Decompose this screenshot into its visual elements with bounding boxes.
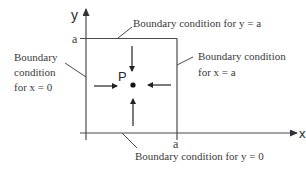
point-p-label: P — [118, 69, 127, 84]
x-axis-label: x — [299, 126, 306, 141]
label-bottom-boundary: Boundary condition for y = 0 — [135, 150, 264, 162]
leader-right — [177, 57, 193, 65]
leader-top — [118, 27, 132, 38]
label-left-line3: for x = 0 — [14, 81, 53, 93]
y-axis-label: y — [71, 7, 78, 23]
label-top-boundary: Boundary condition for y = a — [133, 17, 261, 29]
y-tick-label: a — [72, 32, 78, 46]
leader-left — [65, 63, 86, 77]
leader-bottom — [122, 133, 137, 148]
label-right-line1: Boundary condition — [198, 50, 286, 62]
point-p-dot — [130, 82, 135, 87]
label-right-line2: for x = a — [198, 66, 236, 78]
label-left-line2: condition — [14, 66, 56, 78]
boundary-condition-diagram: y x a a P Boundary condition for y = a B… — [0, 0, 306, 171]
label-left-line1: Boundary — [14, 51, 58, 63]
x-tick-label: a — [173, 137, 179, 151]
